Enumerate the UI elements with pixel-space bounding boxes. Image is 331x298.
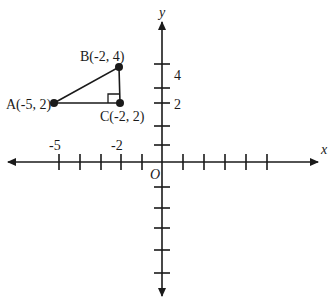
y-axis-label: y [157, 5, 166, 20]
x-tick-label-neg2: -2 [111, 138, 123, 153]
point-b [115, 63, 123, 71]
point-a [50, 99, 58, 107]
point-c [116, 99, 124, 107]
point-b-label: B(-2, 4) [80, 49, 125, 65]
y-tick-label-4: 4 [174, 68, 181, 83]
x-axis-label: x [320, 142, 328, 157]
x-tick-label-neg5: -5 [49, 138, 61, 153]
triangle-abc [54, 67, 120, 103]
point-a-label: A(-5, 2) [6, 97, 51, 113]
y-tick-label-2: 2 [174, 97, 181, 112]
point-c-label: C(-2, 2) [100, 109, 145, 125]
origin-label: O [150, 167, 160, 182]
coordinate-plane: y x O -5 -2 4 2 A(-5, 2) B(-2, 4) C(-2, … [0, 0, 331, 298]
